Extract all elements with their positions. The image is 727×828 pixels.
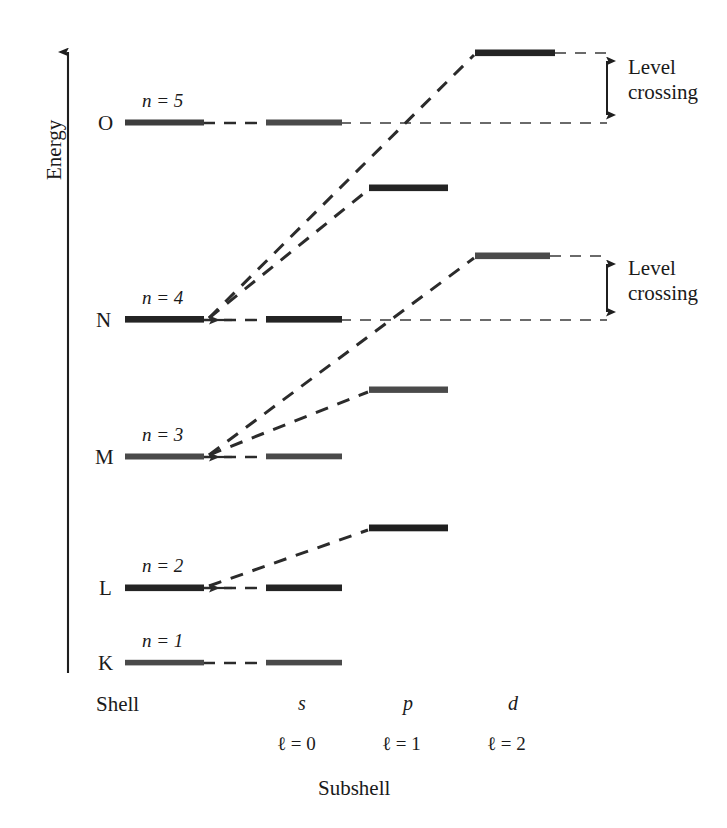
shell-letter-N: N bbox=[96, 308, 111, 333]
bar-K-shell bbox=[125, 660, 204, 666]
n-label-4: n = 4 bbox=[142, 287, 183, 309]
bar-2p bbox=[369, 525, 448, 532]
bar-1s bbox=[266, 660, 342, 666]
bar-3s bbox=[266, 454, 342, 460]
bar-4d bbox=[475, 50, 555, 57]
d-subshell-bars bbox=[475, 50, 555, 260]
bar-M-shell bbox=[125, 454, 204, 460]
energy-axis-label: Energy bbox=[42, 120, 67, 180]
subshell-axis-caption: Subshell bbox=[318, 776, 390, 801]
n-label-3: n = 3 bbox=[142, 424, 183, 446]
bar-4p bbox=[369, 185, 448, 192]
s-subshell-bars bbox=[266, 120, 342, 666]
bar-4s bbox=[266, 316, 342, 323]
subshell-l-value-s: ℓ = 0 bbox=[277, 733, 316, 755]
bar-O-shell bbox=[125, 120, 204, 126]
level-crossing-label-2-line1: Level bbox=[628, 256, 698, 281]
subshell-letter-d: d bbox=[508, 692, 518, 715]
bar-3d bbox=[475, 253, 550, 260]
subshell-letter-p: p bbox=[403, 692, 413, 715]
subshell-l-value-d: ℓ = 2 bbox=[487, 733, 526, 755]
n-label-2: n = 2 bbox=[142, 555, 183, 577]
reference-lines bbox=[340, 123, 607, 320]
d-level-tails bbox=[550, 53, 607, 256]
dashed-connectors bbox=[203, 123, 266, 663]
p-subshell-bars bbox=[369, 185, 448, 532]
bar-2s bbox=[266, 585, 342, 592]
n-label-5: n = 5 bbox=[142, 90, 183, 112]
shell-axis-caption: Shell bbox=[96, 692, 139, 717]
subshell-letter-s: s bbox=[298, 692, 306, 715]
bar-N-shell bbox=[125, 316, 204, 323]
n-label-1: n = 1 bbox=[142, 630, 183, 652]
bar-3p bbox=[369, 387, 448, 393]
energy-level-diagram: Energy O N M L K n = 5 n = 4 n = 3 n = 2… bbox=[0, 0, 727, 828]
bar-5s bbox=[266, 120, 342, 126]
level-crossing-label-1: Level crossing bbox=[628, 55, 698, 105]
bar-L-shell bbox=[125, 585, 204, 592]
level-crossing-label-1-line1: Level bbox=[628, 55, 698, 80]
level-crossing-label-2: Level crossing bbox=[628, 256, 698, 306]
shell-letter-M: M bbox=[95, 445, 114, 470]
level-crossing-label-1-line2: crossing bbox=[628, 80, 698, 105]
shell-letter-K: K bbox=[98, 651, 113, 676]
shell-level-bars bbox=[125, 120, 204, 666]
split-N-to-p bbox=[209, 190, 368, 318]
shell-letter-L: L bbox=[99, 576, 112, 601]
shell-letter-O: O bbox=[98, 111, 113, 136]
split-M-to-p bbox=[209, 392, 368, 455]
level-crossing-label-2-line2: crossing bbox=[628, 281, 698, 306]
split-L-to-p bbox=[209, 530, 368, 586]
subshell-l-value-p: ℓ = 1 bbox=[382, 733, 421, 755]
